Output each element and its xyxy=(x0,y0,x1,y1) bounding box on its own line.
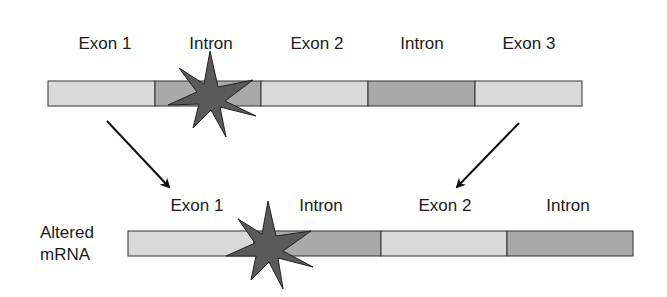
arrow-icon-right xyxy=(457,123,519,187)
diagram-canvas xyxy=(0,0,667,297)
gene-segment-intron-2 xyxy=(368,81,475,106)
mrna-bar xyxy=(128,231,633,256)
gene-segment-exon-3 xyxy=(475,81,582,106)
gene-segment-exon-2 xyxy=(261,81,368,106)
gene-segment-exon-1 xyxy=(48,81,155,106)
mrna-segment-intron-2 xyxy=(507,231,633,256)
gene-bar xyxy=(48,81,582,106)
arrow-icon-left xyxy=(107,121,169,187)
mrna-segment-exon-2 xyxy=(381,231,507,256)
